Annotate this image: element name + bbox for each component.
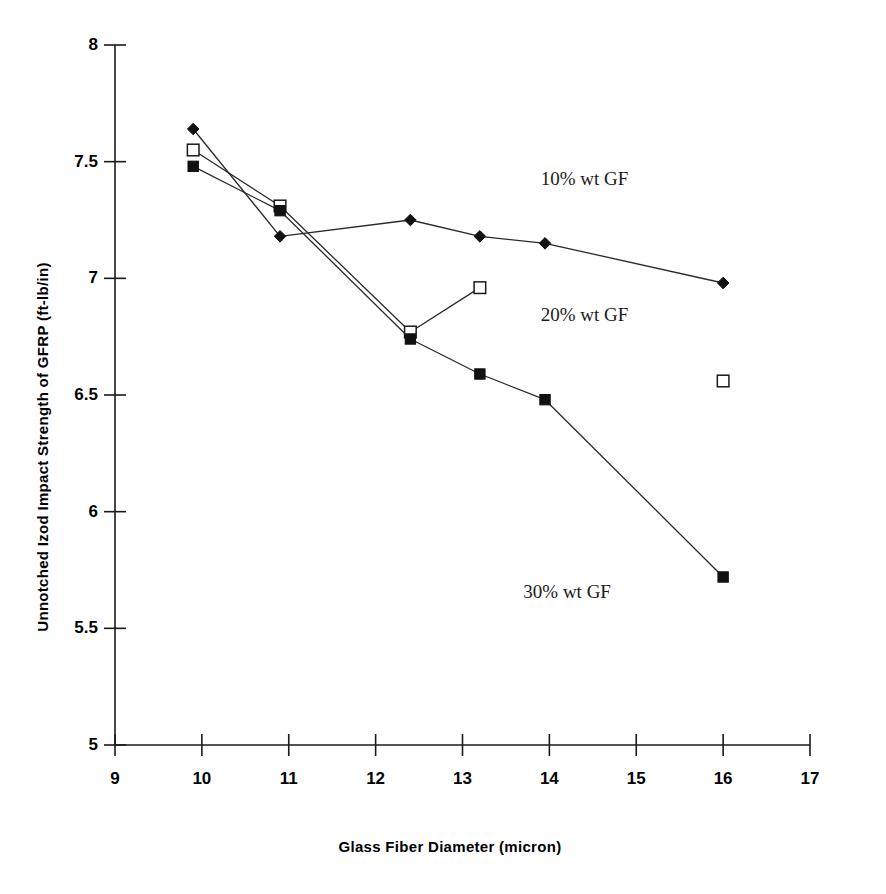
- x-tick-label: 9: [110, 769, 119, 789]
- series-1-markers: [187, 123, 729, 289]
- axis-ticks: [104, 45, 810, 756]
- y-tick-label: 5.5: [40, 618, 98, 638]
- x-tick-label: 15: [627, 769, 646, 789]
- series-label-3: 30% wt GF: [523, 581, 611, 603]
- axis-lines: [115, 45, 810, 745]
- x-tick-label: 11: [280, 769, 298, 789]
- chart-figure: Unnotched Izod Impact Strength of GFRP (…: [0, 0, 886, 894]
- series-2-markers: [187, 144, 485, 338]
- y-tick-label: 7: [40, 268, 98, 288]
- series-1: [193, 129, 723, 283]
- x-axis-title: Glass Fiber Diameter (micron): [100, 838, 800, 855]
- chart-plot-area: [0, 0, 886, 894]
- series-label-1: 10% wt GF: [541, 168, 629, 190]
- series-4-markers: [188, 161, 728, 582]
- y-tick-label: 7.5: [40, 152, 98, 172]
- x-tick-label: 16: [714, 769, 733, 789]
- x-tick-label: 10: [192, 769, 211, 789]
- x-tick-label: 13: [453, 769, 472, 789]
- y-tick-label: 6: [40, 502, 98, 522]
- series-2: [193, 150, 480, 332]
- x-tick-label: 17: [801, 769, 820, 789]
- y-axis-title: Unnotched Izod Impact Strength of GFRP (…: [22, 0, 62, 894]
- series-label-2: 20% wt GF: [541, 304, 629, 326]
- y-tick-label: 5: [40, 735, 98, 755]
- y-tick-label: 8: [40, 35, 98, 55]
- y-tick-label: 6.5: [40, 385, 98, 405]
- series-3-markers: [717, 375, 729, 387]
- x-tick-label: 14: [540, 769, 559, 789]
- x-tick-label: 12: [366, 769, 385, 789]
